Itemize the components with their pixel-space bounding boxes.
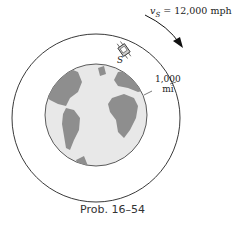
velocity-arrow: [145, 15, 180, 44]
satellite-label: S: [117, 55, 123, 65]
earth: [45, 64, 147, 168]
altitude-value: 1,000: [155, 74, 181, 84]
velocity-label: vS = 12,000 mph: [150, 5, 232, 19]
orbit-diagram: [0, 0, 236, 225]
altitude-dim-inner: [144, 91, 152, 95]
arrowhead-icon: [173, 37, 183, 48]
altitude-unit: mi: [155, 84, 181, 94]
caption: Prob. 16–54: [80, 203, 145, 216]
velocity-value: = 12,000 mph: [160, 5, 231, 16]
altitude-label: 1,000mi: [155, 74, 181, 94]
